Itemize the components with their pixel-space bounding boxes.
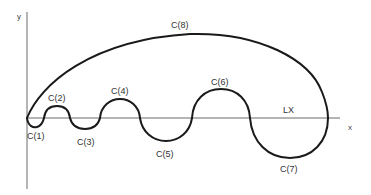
label-c1: C(1)	[27, 131, 45, 141]
label-c3: C(3)	[77, 137, 95, 147]
curve-c5	[140, 118, 192, 141]
curve-c7	[250, 118, 328, 158]
curve-c6	[192, 89, 250, 118]
curve-c4	[100, 99, 140, 118]
curve-c3	[70, 118, 100, 129]
x-axis-label: x	[348, 123, 352, 132]
curve-c2	[44, 106, 70, 118]
curve-c1	[27, 118, 44, 127]
curve-diagram: y x LX C(1) C(2) C(3) C(4) C(5) C(6) C(7…	[0, 0, 371, 195]
label-c4: C(4)	[111, 86, 129, 96]
label-c2: C(2)	[48, 93, 66, 103]
line-lx-label: LX	[283, 105, 294, 115]
label-c5: C(5)	[156, 149, 174, 159]
label-c6: C(6)	[211, 77, 229, 87]
label-c7: C(7)	[280, 164, 298, 174]
label-c8: C(8)	[171, 20, 189, 30]
y-axis-label: y	[17, 12, 21, 21]
